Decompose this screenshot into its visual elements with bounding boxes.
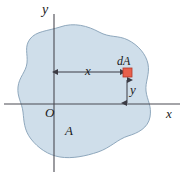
x-dimension-label: x bbox=[85, 64, 91, 77]
diagram-canvas bbox=[0, 0, 187, 177]
area-moment-diagram: y x O A x y dA bbox=[0, 0, 187, 177]
y-dimension-label: y bbox=[130, 83, 136, 96]
origin-label: O bbox=[45, 106, 54, 119]
da-element-label: dA bbox=[117, 55, 130, 67]
area-label: A bbox=[65, 124, 73, 137]
x-axis-label: x bbox=[166, 107, 172, 120]
y-axis-label: y bbox=[42, 3, 48, 17]
da-element-marker bbox=[123, 68, 132, 77]
